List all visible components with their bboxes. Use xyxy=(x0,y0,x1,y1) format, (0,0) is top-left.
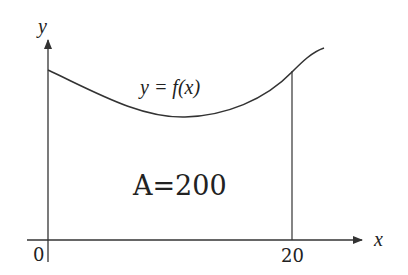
x-axis-label: x xyxy=(373,228,383,250)
x-tick-label-20: 20 xyxy=(281,245,304,266)
y-axis-label: y xyxy=(36,15,47,38)
area-under-curve-diagram: y x 0 20 y = f(x) A=200 xyxy=(0,0,408,275)
curve-label: y = f(x) xyxy=(138,76,200,99)
origin-label: 0 xyxy=(33,244,44,265)
area-label: A=200 xyxy=(132,170,227,201)
